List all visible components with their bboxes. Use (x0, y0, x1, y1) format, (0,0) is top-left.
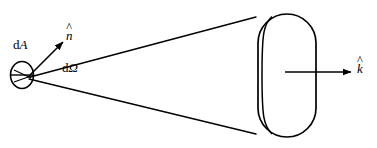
normal-vector-arrow (28, 42, 63, 77)
label-solid-angle: dΩ (62, 61, 78, 74)
label-normal-vector: n ^ (66, 29, 73, 42)
figure-canvas: dA n ^ dΩ k ^ (0, 0, 377, 148)
cone-lower-edge (29, 79, 256, 134)
label-normal-vector-symbol: n ^ (66, 29, 73, 42)
detector-back-edge-arc (262, 17, 272, 135)
hat-accent-icon: ^ (357, 54, 363, 66)
label-area-element-symbol: A (20, 37, 28, 52)
detector-stadium-shape (258, 14, 316, 137)
label-area-element: dA (13, 38, 27, 51)
hat-accent-icon: ^ (66, 21, 72, 33)
label-solid-angle-symbol: Ω (69, 60, 78, 75)
diagram-svg (0, 0, 377, 148)
label-wave-vector: k ^ (357, 62, 363, 75)
label-wave-vector-symbol: k ^ (357, 62, 363, 75)
